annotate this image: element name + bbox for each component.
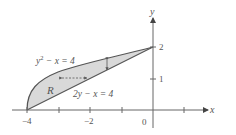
parabola-equation-label: y2 − x = 4 (35, 54, 75, 66)
y-tick-label-1: 1 (159, 74, 164, 84)
region-diagram: −4 −2 0 1 2 x y y2 − x = 4 2y − x = 4 R (0, 0, 236, 135)
x-tick-label-neg2: −2 (84, 116, 94, 126)
line-equation-label: 2y − x = 4 (73, 89, 114, 99)
y-tick-label-2: 2 (159, 42, 164, 52)
region-label: R (46, 84, 54, 96)
x-tick-label-0: 0 (142, 117, 147, 127)
y-axis-label: y (149, 6, 155, 17)
x-tick-label-neg4: −4 (22, 116, 32, 126)
x-axis-label: x (209, 104, 215, 115)
